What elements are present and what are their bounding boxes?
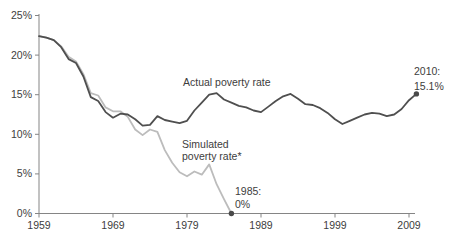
y-tick-label: 15%: [2, 88, 32, 101]
series-label-actual-poverty-rate: Actual poverty rate: [183, 76, 271, 88]
annotation-1985-zero: 1985: 0%: [235, 185, 261, 210]
x-tick-label: 1969: [93, 219, 133, 232]
axis-lines: [39, 14, 415, 214]
x-tick-label: 2009: [389, 219, 429, 232]
series-label-simulated-line1: Simulated: [182, 139, 242, 151]
series-label-simulated-line2: poverty rate*: [182, 151, 242, 163]
y-tick-label: 25%: [2, 9, 32, 22]
y-tick-label: 20%: [2, 49, 32, 62]
x-tick-label: 1979: [167, 219, 207, 232]
x-tick-label: 1989: [241, 219, 281, 232]
chart-plot-canvas: [0, 0, 452, 246]
x-tick-label: 1999: [315, 219, 355, 232]
annotation-1985-year: 1985:: [235, 185, 261, 198]
simulated-poverty-rate-line: [39, 36, 231, 213]
endpoint-dot-1985: [229, 211, 234, 216]
poverty-rate-chart: Actual poverty rate Simulated poverty ra…: [0, 0, 452, 246]
series-label-simulated-poverty-rate: Simulated poverty rate*: [182, 139, 242, 162]
annotation-2010-value: 2010: 15.1%: [414, 64, 444, 93]
annotation-2010-rate: 15.1%: [414, 79, 444, 94]
y-tick-label: 5%: [2, 167, 32, 180]
x-tick-label: 1959: [19, 219, 59, 232]
annotation-1985-value: 0%: [235, 198, 261, 211]
annotation-2010-year: 2010:: [414, 64, 444, 79]
y-tick-label: 10%: [2, 128, 32, 141]
